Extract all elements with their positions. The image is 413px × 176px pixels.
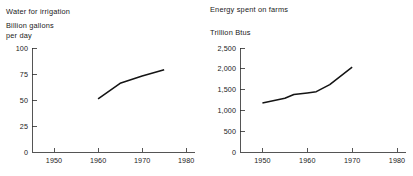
x-axis-tick-label: 1970	[134, 156, 150, 165]
plot-area-water-for-irrigation: 02550751001950196019701980	[0, 0, 207, 176]
y-axis-tick-label: 50	[20, 96, 28, 105]
chart-panel-energy-spent-on-farms: Energy spent on farms Trillion Btus 0500…	[206, 0, 413, 176]
x-axis-tick-label: 1960	[299, 156, 315, 165]
chart-axes	[32, 48, 195, 152]
x-axis-tick-label: 1950	[254, 156, 270, 165]
x-axis-tick-label: 1950	[46, 156, 62, 165]
x-axis-tick-label: 1960	[90, 156, 106, 165]
plot-area-energy-spent-on-farms: 05001,0001,5002,0002,5001950196019701980	[206, 0, 413, 176]
y-axis-tick-label: 25	[20, 122, 28, 131]
chart-panel-water-for-irrigation: Water for irrigation Billion gallons per…	[0, 0, 207, 176]
y-axis-tick-label: 500	[224, 127, 236, 136]
y-axis-tick-label: 1,500	[218, 85, 237, 94]
y-axis-tick-label: 1,000	[218, 106, 237, 115]
x-axis-tick-label: 1980	[178, 156, 194, 165]
y-axis-tick-label: 100	[16, 44, 28, 53]
data-series-line	[98, 70, 164, 99]
chart-axes	[240, 48, 406, 152]
data-series-line	[262, 67, 352, 103]
y-axis-tick-label: 0	[232, 148, 236, 157]
x-axis-tick-label: 1980	[389, 156, 405, 165]
y-axis-tick-label: 75	[20, 70, 28, 79]
x-axis-tick-label: 1970	[344, 156, 360, 165]
y-axis-tick-label: 0	[24, 148, 28, 157]
y-axis-tick-label: 2,500	[218, 44, 237, 53]
y-axis-tick-label: 2,000	[218, 64, 237, 73]
